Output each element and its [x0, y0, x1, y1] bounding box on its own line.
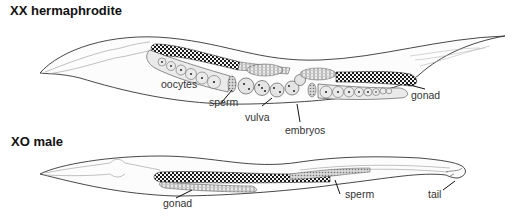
tail-leader [443, 181, 455, 190]
male-worm [40, 156, 465, 198]
label-sperm-male: sperm [345, 188, 374, 200]
hermaphrodite-title: XX hermaphrodite [10, 3, 122, 18]
posterior-spermatheca [308, 83, 316, 97]
anterior-spermatheca [228, 76, 236, 92]
worm-diagram [0, 0, 518, 219]
label-sperm: sperm [209, 96, 238, 108]
embryos-leader [297, 104, 300, 122]
label-tail: tail [428, 188, 441, 200]
label-vulva: vulva [245, 111, 270, 123]
label-gonad-herm: gonad [411, 89, 440, 101]
label-oocytes: oocytes [161, 78, 197, 90]
label-gonad-male: gonad [163, 197, 192, 209]
hermaphrodite-worm [40, 36, 505, 122]
label-embryos: embryos [285, 124, 325, 136]
male-title: XO male [11, 134, 63, 149]
